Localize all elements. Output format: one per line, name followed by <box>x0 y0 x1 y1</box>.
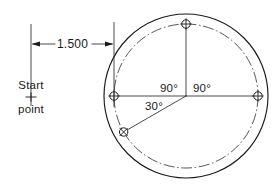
angle-label-right-90: 90° <box>193 82 211 94</box>
hole-right <box>252 90 263 101</box>
angle-label-left-90: 90° <box>160 82 178 94</box>
dimension-arrow-right <box>105 42 114 47</box>
bolt-circle-drawing: 1.500 90° 90° 30° Start point <box>0 0 279 188</box>
dimension-value-label: 1.500 <box>57 37 88 51</box>
dimension-arrow-left <box>32 42 41 47</box>
hole-top <box>180 18 191 29</box>
technical-drawing-canvas: 1.500 90° 90° 30° Start point <box>0 0 279 188</box>
start-point-label-start: Start <box>18 79 44 91</box>
angle-label-30: 30° <box>145 100 163 112</box>
start-point-label-point: point <box>18 103 45 115</box>
hole-lower-left <box>119 128 127 136</box>
start-point-marker-icon <box>26 93 37 102</box>
